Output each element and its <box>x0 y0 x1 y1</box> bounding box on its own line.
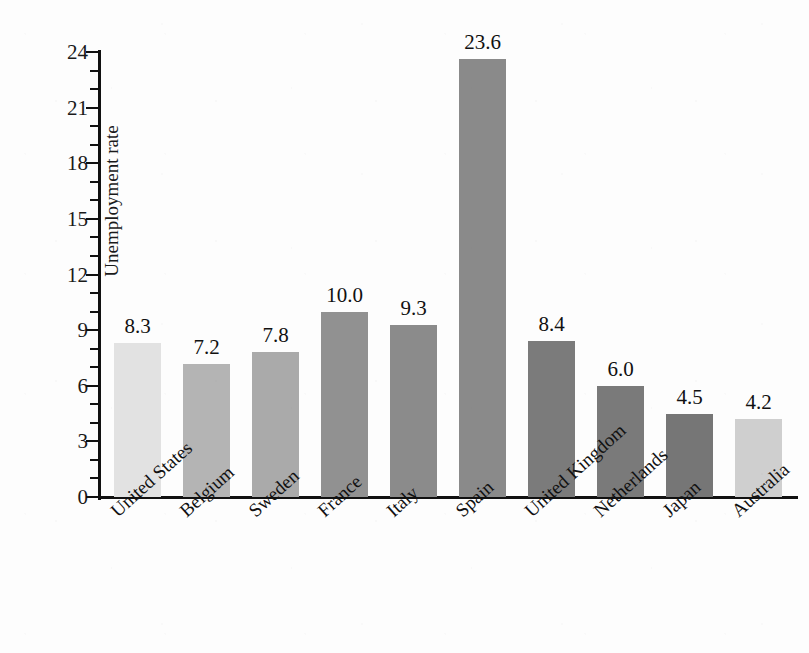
bar-value-label: 8.4 <box>516 314 587 335</box>
y-axis-tick-label: 24 <box>48 42 88 63</box>
y-axis-tick-labels: 03691215182124 <box>44 52 88 497</box>
bar <box>459 59 506 497</box>
y-axis-minor-tick <box>90 125 100 127</box>
y-axis-minor-tick <box>90 255 100 257</box>
y-axis-major-tick <box>86 162 100 164</box>
y-axis-tick-label: 12 <box>48 264 88 285</box>
bar-value-label: 7.8 <box>240 325 311 346</box>
y-axis-major-tick <box>86 385 100 387</box>
bar-value-label: 8.3 <box>102 316 173 337</box>
y-axis-tick-label: 18 <box>48 153 88 174</box>
y-axis-tick-label: 6 <box>48 375 88 396</box>
y-axis-major-tick <box>86 496 100 498</box>
bar-value-label: 9.3 <box>378 298 449 319</box>
y-axis-minor-tick <box>90 477 100 479</box>
y-axis-tick-label: 9 <box>48 320 88 341</box>
bar <box>321 312 368 497</box>
y-axis-minor-tick <box>90 311 100 313</box>
y-axis-minor-tick <box>90 88 100 90</box>
y-axis-major-tick <box>86 274 100 276</box>
y-axis-minor-tick <box>90 70 100 72</box>
y-axis-major-tick <box>86 51 100 53</box>
y-axis-minor-tick <box>90 366 100 368</box>
y-axis-minor-tick <box>90 348 100 350</box>
bar-value-label: 10.0 <box>309 285 380 306</box>
y-axis-major-tick <box>86 107 100 109</box>
y-axis-tick-label: 0 <box>48 487 88 508</box>
y-axis-minor-tick <box>90 144 100 146</box>
bar-value-label: 6.0 <box>585 359 656 380</box>
y-axis-tick-label: 21 <box>48 97 88 118</box>
y-axis-major-tick <box>86 329 100 331</box>
y-axis-minor-tick <box>90 292 100 294</box>
plot-area: 8.37.27.810.09.323.68.46.04.54.2 <box>100 52 790 497</box>
x-axis-category-labels: United StatesBelgiumSwedenFranceItalySpa… <box>100 506 800 646</box>
y-axis-major-tick <box>86 218 100 220</box>
bar-value-label: 7.2 <box>171 337 242 358</box>
y-axis-minor-tick <box>90 403 100 405</box>
bar-value-label: 23.6 <box>447 32 518 53</box>
y-axis-minor-tick <box>90 199 100 201</box>
bar <box>390 325 437 497</box>
y-axis-minor-tick <box>90 422 100 424</box>
y-axis-tick-label: 3 <box>48 431 88 452</box>
y-axis-minor-tick <box>90 181 100 183</box>
y-axis-major-tick <box>86 440 100 442</box>
chart-figure: Unemployment rate 03691215182124 8.37.27… <box>0 0 809 653</box>
bar-value-label: 4.2 <box>723 392 794 413</box>
bar-value-label: 4.5 <box>654 387 725 408</box>
y-axis-tick-label: 15 <box>48 208 88 229</box>
y-axis-minor-tick <box>90 459 100 461</box>
y-axis-minor-tick <box>90 236 100 238</box>
